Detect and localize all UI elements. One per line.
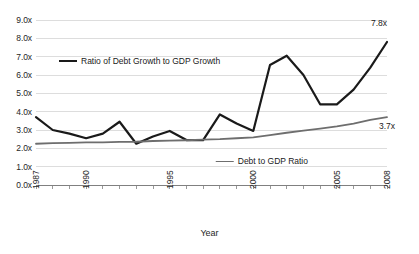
y-axis: 0.0x1.0x2.0x3.0x4.0x5.0x6.0x7.0x8.0x9.0x xyxy=(0,20,32,185)
x-axis-tick-label: 1990 xyxy=(82,170,91,189)
y-axis-tick-label: 4.0x xyxy=(16,107,32,116)
x-axis-tick-label: 2005 xyxy=(333,170,342,189)
chart-container: 0.0x1.0x2.0x3.0x4.0x5.0x6.0x7.0x8.0x9.0x… xyxy=(0,0,419,254)
legend-item-debt-to-gdp-ratio: Debt to GDP Ratio xyxy=(216,156,308,166)
y-axis-tick-label: 7.0x xyxy=(16,52,32,61)
x-axis-tick-label: 2008 xyxy=(383,170,392,189)
series-line xyxy=(36,117,387,144)
y-axis-tick-label: 8.0x xyxy=(16,34,32,43)
y-axis-tick-label: 5.0x xyxy=(16,89,32,98)
y-axis-tick-label: 2.0x xyxy=(16,144,32,153)
y-axis-tick-label: 6.0x xyxy=(16,71,32,80)
legend-swatch-ratio-icon xyxy=(59,60,77,62)
legend-item-ratio-of-debt-growth-to-gdp-growth: Ratio of Debt Growth to GDP Growth xyxy=(59,56,220,66)
y-axis-tick-label: 9.0x xyxy=(16,16,32,25)
y-axis-tick-label: 3.0x xyxy=(16,126,32,135)
legend-label-ratio: Ratio of Debt Growth to GDP Growth xyxy=(81,56,220,66)
x-axis-tick-label: 1995 xyxy=(165,170,174,189)
x-axis: 198719901995200020052008 xyxy=(36,189,387,229)
x-axis-tick-label: 1987 xyxy=(32,170,41,189)
legend-label-debt: Debt to GDP Ratio xyxy=(238,156,308,166)
legend-swatch-debt-icon xyxy=(216,161,234,162)
plot-area xyxy=(36,20,387,185)
y-axis-tick-label: 1.0x xyxy=(16,162,32,171)
y-axis-tick-label: 0.0x xyxy=(16,181,32,190)
data-label-ratio-2008: 7.8x xyxy=(371,18,387,28)
series-lines xyxy=(36,20,387,185)
x-axis-title: Year xyxy=(0,228,419,238)
data-label-debt-2008: 3.7x xyxy=(379,121,395,131)
x-axis-tick-label: 2000 xyxy=(249,170,258,189)
